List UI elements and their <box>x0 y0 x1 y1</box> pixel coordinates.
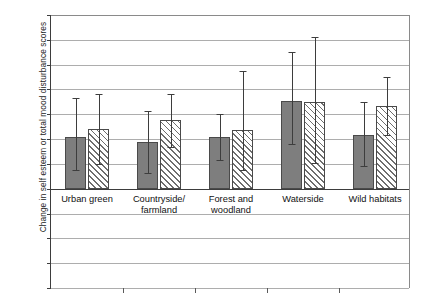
error-bar-cap-lower <box>311 163 318 164</box>
x-axis-tick-mark <box>123 288 124 293</box>
x-axis-category-label: Countryside/farmland <box>123 194 195 217</box>
error-bar <box>220 114 221 160</box>
category-label-line1: Wild habitats <box>348 194 401 204</box>
error-bar-cap-lower <box>95 164 102 165</box>
y-axis-tick-mark <box>47 288 51 289</box>
category-label-line1: Countryside/ <box>133 194 185 204</box>
error-bar-cap-lower <box>167 147 174 148</box>
bar-group: Wild habitats <box>339 15 411 288</box>
x-axis-category-label: Wild habitats <box>339 194 411 206</box>
error-bar <box>99 94 100 163</box>
x-axis-category-label: Urban green <box>51 194 123 206</box>
error-bar-cap-upper <box>239 71 246 72</box>
error-bar-cap-lower <box>288 144 295 145</box>
chart-container: Change in self esteem or total mood dist… <box>0 0 423 301</box>
error-bar-cap-upper <box>167 94 174 95</box>
category-label-line2: woodland <box>195 205 267 217</box>
error-bar <box>148 111 149 173</box>
category-label-line2: farmland <box>123 205 195 217</box>
error-bar <box>364 102 365 167</box>
plot-area: 1.41.210.80.60.40.20–0.2–0.4–0.6–0.8Urba… <box>50 15 410 288</box>
x-axis-tick-mark <box>195 288 196 293</box>
error-bar-cap-upper <box>216 114 223 115</box>
bar-group: Countryside/farmland <box>123 15 195 288</box>
category-label-line1: Forest and <box>209 194 253 204</box>
error-bar <box>387 77 388 135</box>
error-bar-cap-lower <box>216 160 223 161</box>
bar-group: Urban green <box>51 15 123 288</box>
error-bar-cap-upper <box>288 52 295 53</box>
error-bar-cap-lower <box>383 135 390 136</box>
bar-group: Waterside <box>267 15 339 288</box>
category-label-line1: Urban green <box>61 194 113 204</box>
error-bar-cap-upper <box>95 94 102 95</box>
x-axis-tick-mark <box>267 288 268 293</box>
gridline <box>51 288 409 289</box>
error-bar <box>76 98 77 170</box>
error-bar-cap-lower <box>72 170 79 171</box>
x-axis-tick-mark <box>339 288 340 293</box>
error-bar-cap-upper <box>360 102 367 103</box>
error-bar <box>171 94 172 146</box>
error-bar <box>292 52 293 144</box>
error-bar-cap-lower <box>144 173 151 174</box>
category-label-line1: Waterside <box>282 194 324 204</box>
x-axis-category-label: Waterside <box>267 194 339 206</box>
error-bar-cap-lower <box>360 166 367 167</box>
x-axis-category-label: Forest andwoodland <box>195 194 267 217</box>
bar-group: Forest andwoodland <box>195 15 267 288</box>
error-bar-cap-upper <box>72 98 79 99</box>
error-bar-cap-lower <box>239 170 246 171</box>
error-bar <box>315 37 316 162</box>
error-bar <box>243 71 244 170</box>
error-bar-cap-upper <box>311 37 318 38</box>
error-bar-cap-upper <box>383 77 390 78</box>
error-bar-cap-upper <box>144 111 151 112</box>
